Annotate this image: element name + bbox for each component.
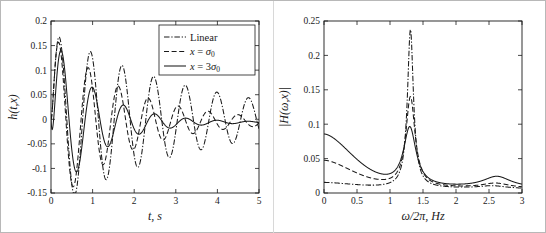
x-tick-label: 3 — [520, 196, 525, 206]
x-tick-label: 3 — [173, 196, 178, 206]
x-tick-label: 1 — [388, 196, 393, 206]
y-tick-label: 0.25 — [303, 16, 320, 26]
time-response-chart: 012345-0.15-0.1-0.0500.050.10.150.2t, sh… — [1, 1, 274, 233]
figure-container: 012345-0.15-0.1-0.0500.050.10.150.2t, sh… — [0, 0, 546, 233]
x-axis-label: t, s — [148, 209, 162, 223]
y-tick-label: 0 — [42, 115, 47, 125]
x-tick-label: 0.5 — [351, 196, 363, 206]
y-tick-label: 0.15 — [30, 41, 47, 51]
y-tick-label: 0.2 — [308, 51, 320, 61]
series-line — [324, 30, 522, 188]
y-tick-label: 0.05 — [303, 154, 320, 164]
y-tick-label: 0.15 — [303, 85, 320, 95]
series-line — [324, 127, 522, 185]
frequency-response-chart: 00.511.522.5300.050.10.150.20.25ω/2π, Hz… — [274, 1, 546, 233]
x-tick-label: 4 — [215, 196, 220, 206]
x-tick-label: 2 — [132, 196, 137, 206]
x-tick-label: 5 — [257, 196, 262, 206]
y-tick-label: 0 — [315, 188, 320, 198]
time-response-panel: 012345-0.15-0.1-0.0500.050.10.150.2t, sh… — [1, 1, 274, 233]
series-line — [324, 97, 522, 187]
y-tick-label: 0.1 — [308, 120, 320, 130]
x-tick-label: 0 — [322, 196, 327, 206]
x-tick-label: 0 — [49, 196, 54, 206]
legend: Linearx = σ0x = 3σ0 — [159, 25, 255, 75]
x-tick-label: 1 — [90, 196, 95, 206]
frequency-response-panel: 00.511.522.5300.050.10.150.20.25ω/2π, Hz… — [274, 1, 546, 233]
x-axis-label: ω/2π, Hz — [401, 209, 444, 223]
axes-frame — [324, 21, 522, 193]
x-tick-label: 2.5 — [483, 196, 495, 206]
x-tick-label: 2 — [454, 196, 459, 206]
y-axis-label: |H(ω,x)| — [277, 87, 291, 127]
y-tick-label: -0.1 — [32, 164, 47, 174]
y-tick-label: 0.2 — [35, 16, 47, 26]
legend-label: Linear — [190, 32, 218, 43]
x-tick-label: 1.5 — [417, 196, 429, 206]
y-tick-label: -0.15 — [27, 188, 47, 198]
y-tick-label: -0.05 — [27, 139, 47, 149]
y-tick-label: 0.1 — [35, 66, 47, 76]
y-tick-label: 0.05 — [30, 90, 47, 100]
y-axis-label: h(t,x) — [6, 94, 20, 120]
